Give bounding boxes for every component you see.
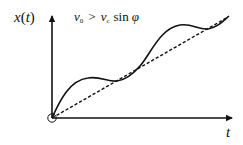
condition-formula: v0>vcsinφ — [74, 9, 139, 25]
y-axis-label: x(t) — [13, 9, 35, 26]
sin-function: sin — [114, 9, 130, 24]
dashed-reference-line — [52, 17, 228, 118]
x-axis-label: t — [226, 124, 231, 140]
angle-phi: φ — [132, 9, 139, 24]
operator: > — [88, 9, 95, 24]
rhs-subscript: c — [106, 17, 109, 25]
trajectory-diagram: x(t) t v0>vcsinφ — [0, 0, 243, 145]
lhs-subscript: 0 — [80, 17, 84, 25]
